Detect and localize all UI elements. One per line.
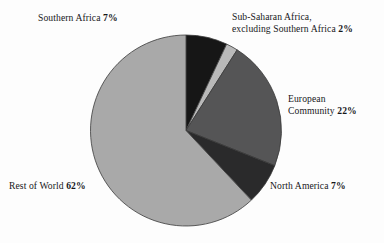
pie-value-north-america: 7% [331,180,346,191]
pie-label-rest-of-world-text: Rest of World 62% [9,180,86,192]
pie-label-european-community-line2: Community 22% [288,105,357,117]
pie-label-sub-saharan-africa-line2: excluding Southern Africa 2% [232,23,353,35]
pie-label-north-america: North America 7% [270,180,346,192]
pie-label-sub-saharan-africa: Sub-Saharan Africa, excluding Southern A… [232,11,353,34]
pie-chart: Southern Africa 7% Sub-Saharan Africa, e… [0,0,384,243]
pie-value-sub-saharan-africa: 2% [338,23,353,34]
pie-label-southern-africa: Southern Africa 7% [38,12,118,24]
pie-value-southern-africa: 7% [103,12,118,23]
pie-label-north-america-text: North America 7% [270,180,346,192]
pie-label-european-community-line1: European [288,93,357,105]
pie-label-rest-of-world: Rest of World 62% [9,180,86,192]
pie-slices [90,35,281,226]
pie-chart-canvas [0,0,384,243]
pie-label-european-community: European Community 22% [288,93,357,116]
pie-value-european-community: 22% [337,105,357,116]
pie-label-southern-africa-text: Southern Africa 7% [38,12,118,24]
pie-value-rest-of-world: 62% [66,180,86,191]
pie-label-sub-saharan-africa-line1: Sub-Saharan Africa, [232,11,353,23]
